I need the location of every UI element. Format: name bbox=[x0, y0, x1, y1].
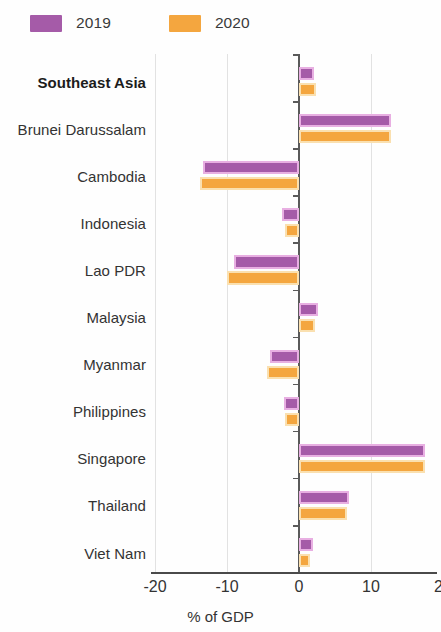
bar-2019 bbox=[284, 397, 299, 410]
legend-swatch-2020 bbox=[169, 15, 201, 32]
category-label: Malaysia bbox=[86, 309, 146, 326]
chart-row: Singapore bbox=[0, 435, 441, 482]
axis-tick bbox=[293, 431, 299, 433]
legend-entry-2019: 2019 bbox=[30, 14, 111, 32]
category-label: Southeast Asia bbox=[37, 73, 146, 90]
bar-2020 bbox=[299, 130, 391, 143]
bar-2019 bbox=[234, 255, 299, 268]
plot-inner: Southeast AsiaBrunei DarussalamCambodiaI… bbox=[0, 54, 441, 574]
bar-2019 bbox=[299, 114, 391, 127]
axis-tick bbox=[293, 148, 299, 150]
x-tick-label: -10 bbox=[215, 578, 238, 596]
chart-row: Lao PDR bbox=[0, 246, 441, 293]
bar-2019 bbox=[270, 350, 299, 363]
category-label: Thailand bbox=[88, 497, 146, 514]
x-tick-label: 10 bbox=[362, 578, 380, 596]
plot-area: Southeast AsiaBrunei DarussalamCambodiaI… bbox=[0, 54, 441, 574]
bar-2020 bbox=[299, 554, 310, 567]
bar-2020 bbox=[299, 319, 315, 332]
bar-2019 bbox=[282, 208, 299, 221]
category-label: Indonesia bbox=[80, 214, 146, 231]
chart-row: Malaysia bbox=[0, 294, 441, 341]
category-label: Cambodia bbox=[77, 167, 146, 184]
legend-label-2020: 2020 bbox=[215, 14, 250, 32]
chart-row: Philippines bbox=[0, 388, 441, 435]
axis-tick bbox=[293, 384, 299, 386]
bar-2020 bbox=[299, 507, 347, 520]
bar-2020 bbox=[267, 366, 299, 379]
bar-2019 bbox=[299, 444, 425, 457]
x-tick-label: 0 bbox=[295, 578, 304, 596]
bar-2019 bbox=[299, 303, 318, 316]
chart-row: Brunei Darussalam bbox=[0, 105, 441, 152]
bar-2020 bbox=[227, 271, 299, 284]
chart-row: Cambodia bbox=[0, 152, 441, 199]
bar-chart: 2019 2020 Southeast AsiaBrunei Darussala… bbox=[0, 0, 441, 632]
category-label: Brunei Darussalam bbox=[18, 120, 146, 137]
bar-2020 bbox=[200, 177, 299, 190]
axis-tick bbox=[293, 525, 299, 527]
category-label: Philippines bbox=[73, 403, 146, 420]
bar-2020 bbox=[285, 413, 299, 426]
category-label: Lao PDR bbox=[85, 261, 146, 278]
legend-label-2019: 2019 bbox=[76, 14, 111, 32]
bar-2019 bbox=[299, 67, 314, 80]
x-axis-tick-labels: -20-1001020 bbox=[0, 578, 441, 604]
axis-tick bbox=[293, 101, 299, 103]
bar-2020 bbox=[285, 224, 299, 237]
chart-row: Myanmar bbox=[0, 341, 441, 388]
axis-tick bbox=[293, 337, 299, 339]
chart-legend: 2019 2020 bbox=[0, 0, 441, 46]
bar-2019 bbox=[299, 538, 313, 551]
legend-entry-2020: 2020 bbox=[169, 14, 250, 32]
axis-tick bbox=[293, 242, 299, 244]
category-label: Viet Nam bbox=[84, 544, 146, 561]
bar-2020 bbox=[299, 460, 425, 473]
bar-2020 bbox=[299, 83, 316, 96]
x-tick-label: 20 bbox=[434, 578, 441, 596]
axis-tick bbox=[293, 290, 299, 292]
category-label: Myanmar bbox=[83, 356, 146, 373]
legend-swatch-2019 bbox=[30, 15, 62, 32]
chart-row: Indonesia bbox=[0, 199, 441, 246]
bar-2019 bbox=[203, 161, 299, 174]
chart-row: Southeast Asia bbox=[0, 58, 441, 105]
axis-tick bbox=[293, 195, 299, 197]
chart-row: Thailand bbox=[0, 482, 441, 529]
axis-tick bbox=[293, 478, 299, 480]
axis-tick bbox=[293, 54, 299, 56]
x-axis-title: % of GDP bbox=[0, 608, 441, 625]
chart-row: Viet Nam bbox=[0, 529, 441, 576]
x-tick-label: -20 bbox=[143, 578, 166, 596]
bar-2019 bbox=[299, 491, 349, 504]
category-label: Singapore bbox=[77, 450, 146, 467]
